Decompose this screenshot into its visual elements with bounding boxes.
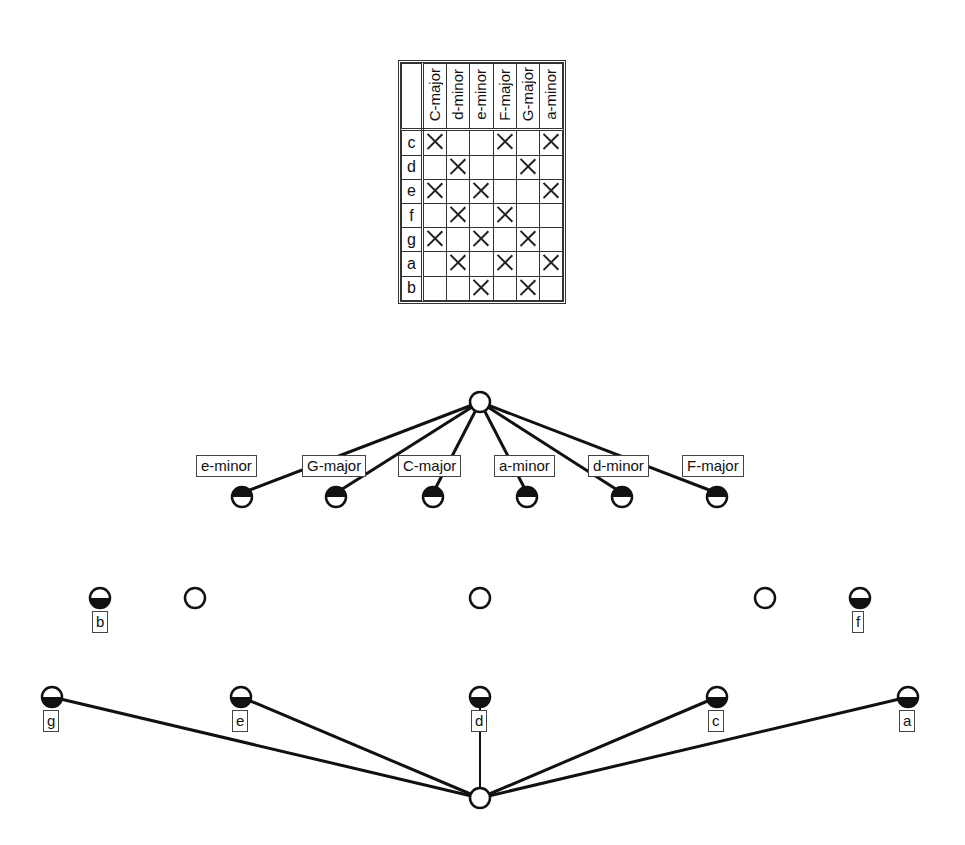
object-label: a <box>402 252 423 276</box>
incidence-cell <box>447 130 470 156</box>
object-label: d <box>471 710 487 732</box>
cross-icon <box>497 206 513 222</box>
object-row: b <box>402 276 563 300</box>
object-concept-node <box>707 687 727 707</box>
cross-icon <box>543 254 559 270</box>
object-label: a <box>899 710 915 732</box>
attribute-concept-node <box>326 487 346 507</box>
lattice-edge <box>433 402 480 493</box>
lattice-edge <box>52 697 480 798</box>
object-label: f <box>852 611 864 633</box>
incidence-cell <box>470 276 493 300</box>
incidence-cell <box>423 276 447 300</box>
incidence-cell <box>470 155 493 179</box>
cross-icon <box>520 158 536 174</box>
attribute-header: d-minor <box>447 64 470 130</box>
incidence-cell <box>493 203 516 227</box>
concept-lattice-figure: C-major d-minor e-minor F-major G-major … <box>0 0 965 845</box>
lattice-edge <box>480 697 717 798</box>
attribute-label: e-minor <box>196 455 257 477</box>
object-label: g <box>43 710 59 732</box>
object-label: g <box>402 228 423 252</box>
cross-icon <box>497 254 513 270</box>
object-row: f <box>402 203 563 227</box>
incidence-cell <box>539 179 562 203</box>
cross-icon <box>543 182 559 198</box>
attribute-concept-node <box>612 487 632 507</box>
object-label: d <box>402 155 423 179</box>
incidence-cell <box>539 203 562 227</box>
incidence-cell <box>470 203 493 227</box>
incidence-cell <box>493 130 516 156</box>
incidence-cell <box>516 155 539 179</box>
cross-icon <box>473 182 489 198</box>
incidence-cell <box>516 179 539 203</box>
attribute-label: d-minor <box>588 455 649 477</box>
attribute-concept-node <box>707 487 727 507</box>
incidence-cell <box>516 252 539 276</box>
lattice-edge <box>336 402 480 493</box>
cross-icon <box>543 133 559 149</box>
incidence-cell <box>447 228 470 252</box>
attribute-header: e-minor <box>470 64 493 130</box>
attribute-concept-node <box>517 487 537 507</box>
lattice-edge <box>480 402 527 493</box>
incidence-cell <box>470 179 493 203</box>
object-concept-node <box>470 687 490 707</box>
incidence-cell <box>493 179 516 203</box>
object-row: e <box>402 179 563 203</box>
cross-icon <box>450 254 466 270</box>
incidence-cell <box>423 179 447 203</box>
attribute-label: G-major <box>302 455 366 477</box>
incidence-cell <box>539 276 562 300</box>
attribute-header-row: C-major d-minor e-minor F-major G-major … <box>402 64 563 130</box>
cross-icon <box>427 182 443 198</box>
object-label: b <box>402 276 423 300</box>
cross-icon <box>520 230 536 246</box>
object-concept-node <box>898 687 918 707</box>
incidence-cell <box>516 203 539 227</box>
lattice-edge <box>480 402 622 493</box>
attribute-label: C-major <box>398 455 461 477</box>
attribute-label: a-minor <box>494 455 555 477</box>
incidence-cell <box>447 179 470 203</box>
incidence-cell <box>423 130 447 156</box>
cross-icon <box>427 133 443 149</box>
incidence-cell <box>539 228 562 252</box>
object-concept-node <box>42 687 62 707</box>
incidence-cell <box>539 155 562 179</box>
attribute-label: F-major <box>682 455 744 477</box>
object-label: c <box>708 710 724 732</box>
object-row: a <box>402 252 563 276</box>
attribute-header: G-major <box>516 64 539 130</box>
lattice-edge <box>241 697 480 798</box>
cross-icon <box>473 279 489 295</box>
incidence-cell <box>539 130 562 156</box>
incidence-cell <box>423 252 447 276</box>
cross-icon <box>473 230 489 246</box>
bottom-concept-node <box>470 788 490 808</box>
concept-node <box>470 588 490 608</box>
attribute-header: a-minor <box>539 64 562 130</box>
object-row: c <box>402 130 563 156</box>
incidence-cell <box>516 276 539 300</box>
lattice-edge <box>242 402 480 493</box>
cross-icon <box>450 206 466 222</box>
incidence-cell <box>447 252 470 276</box>
incidence-cell <box>516 130 539 156</box>
table-corner <box>402 64 423 130</box>
object-row: d <box>402 155 563 179</box>
incidence-cell <box>423 203 447 227</box>
incidence-cell <box>493 155 516 179</box>
incidence-cell <box>516 228 539 252</box>
incidence-cell <box>470 252 493 276</box>
attribute-header: C-major <box>423 64 447 130</box>
lattice-edge <box>480 402 717 493</box>
incidence-cell <box>447 203 470 227</box>
object-concept-node <box>850 588 870 608</box>
incidence-cell <box>539 252 562 276</box>
incidence-cell <box>493 276 516 300</box>
incidence-cell <box>493 228 516 252</box>
attribute-concept-node <box>423 487 443 507</box>
incidence-cell <box>423 228 447 252</box>
